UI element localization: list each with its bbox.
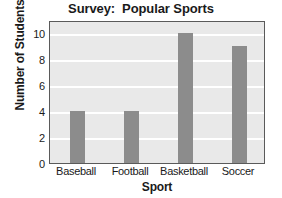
bar [178,33,193,163]
x-axis-tick-labels: BaseballFootballBasketballSoccer [49,165,265,179]
chart-title: Survey: Popular Sports [0,1,282,17]
x-tick-label: Soccer [205,165,271,178]
y-tick-label: 0 [5,159,45,170]
y-axis-tick-labels: 0246810 [0,21,45,164]
bar [124,111,139,163]
bar [70,111,85,163]
gridline [50,34,264,36]
y-tick-label: 6 [5,81,45,92]
y-tick-label: 2 [5,133,45,144]
y-tick-label: 10 [5,29,45,40]
bar-chart-figure: Survey: Popular Sports Number of Student… [0,0,282,198]
y-tick-label: 4 [5,107,45,118]
plot-area [49,21,265,164]
bar [232,46,247,163]
y-tick-label: 8 [5,55,45,66]
x-axis-title: Sport [49,180,265,194]
